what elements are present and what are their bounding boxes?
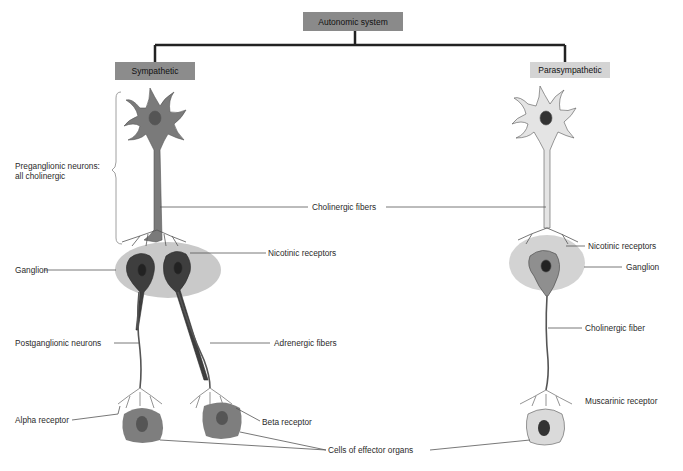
parasympathetic-box: Parasympathetic (530, 62, 610, 78)
preganglionic-brace (112, 92, 122, 244)
cholinergic-fiber-label: Cholinergic fiber (585, 323, 645, 333)
symp-postganglionic-axons (138, 292, 210, 388)
autonomic-system-box: Autonomic system (303, 12, 403, 31)
postganglionic-label: Postganglionic neurons (15, 338, 101, 348)
cholinergic-fibers-label: Cholinergic fibers (312, 202, 376, 212)
preganglionic-label: Preganglionic neurons: (15, 161, 100, 171)
ganglion-left-label: Ganglion (15, 265, 48, 275)
symp-preganglionic-neuron (124, 88, 186, 242)
beta-receptor-label: Beta receptor (262, 417, 312, 427)
adrenergic-fibers-label: Adrenergic fibers (274, 338, 337, 348)
para-effector-terminals (520, 390, 572, 406)
sympathetic-box: Sympathetic (115, 62, 195, 80)
muscarinic-effector-cell (526, 409, 564, 445)
alpha-effector-cell (122, 408, 163, 443)
nicotinic-receptors-left-label: Nicotinic receptors (268, 248, 336, 258)
effector-cells-label: Cells of effector organs (328, 445, 413, 455)
alpha-receptor-label: Alpha receptor (15, 415, 69, 425)
preganglionic-label-2: all cholinergic (15, 171, 65, 181)
muscarinic-receptor-label: Muscarinic receptor (585, 396, 657, 406)
beta-effector-cell (202, 402, 241, 439)
para-postganglionic-axon (546, 296, 548, 390)
nicotinic-receptors-right-label: Nicotinic receptors (588, 241, 656, 251)
hierarchy-connector (155, 31, 565, 62)
ganglion-right-label: Ganglion (626, 262, 659, 272)
